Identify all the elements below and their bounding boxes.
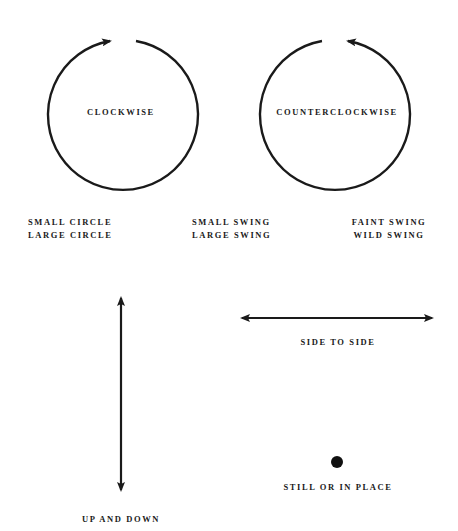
still-dot-icon [331,456,343,468]
still-label: STILL OR IN PLACE [283,481,392,493]
side-to-side-label: SIDE TO SIDE [300,336,375,348]
counterclockwise-label: COUNTERCLOCKWISE [276,106,397,118]
legend-middle-line-2: LARGE SWING [192,229,271,241]
legend-right-line-2: WILD SWING [353,229,424,241]
legend-left-line-1: SMALL CIRCLE [28,216,112,228]
legend-right-line-1: FAINT SWING [352,216,427,228]
legend-middle-line-1: SMALL SWING [192,216,271,228]
diagram-canvas [0,0,458,531]
clockwise-label: CLOCKWISE [87,106,155,118]
up-and-down-label: UP AND DOWN [82,513,160,525]
legend-left-line-2: LARGE CIRCLE [28,229,113,241]
